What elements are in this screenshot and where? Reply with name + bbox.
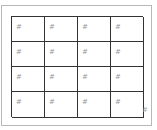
cell-label: # bbox=[115, 23, 121, 31]
cell-label: # bbox=[115, 98, 121, 106]
grid-cell-r2c4[interactable]: # bbox=[111, 42, 144, 67]
cell-label: # bbox=[82, 98, 88, 106]
grid-cell-r4c2[interactable]: # bbox=[45, 92, 78, 118]
cell-label: # bbox=[49, 48, 55, 56]
grid-cell-r1c2[interactable]: # bbox=[45, 17, 78, 42]
grid-cell-r1c4[interactable]: # bbox=[111, 17, 144, 42]
grid-cell-r4c4[interactable]: # bbox=[111, 92, 144, 118]
cell-label: # bbox=[82, 73, 88, 81]
grid-cell-r2c2[interactable]: # bbox=[45, 42, 78, 67]
grid-cell-r3c1[interactable]: # bbox=[12, 67, 45, 92]
grid-cell-r2c3[interactable]: # bbox=[78, 42, 111, 67]
grid-cell-r3c4[interactable]: # bbox=[111, 67, 144, 92]
cell-label: # bbox=[49, 98, 55, 106]
grid-cell-r3c3[interactable]: # bbox=[78, 67, 111, 92]
grid-cell-r3c2[interactable]: # bbox=[45, 67, 78, 92]
cell-label: # bbox=[82, 23, 88, 31]
cell-label: # bbox=[16, 98, 22, 106]
grid-cell-r4c1[interactable]: # bbox=[12, 92, 45, 118]
grid-cell-r1c1[interactable]: # bbox=[12, 17, 45, 42]
cell-label: # bbox=[16, 48, 22, 56]
cell-label: # bbox=[115, 48, 121, 56]
grid-cell-r4c3[interactable]: # bbox=[78, 92, 111, 118]
grid-cell-r2c1[interactable]: # bbox=[12, 42, 45, 67]
cell-label: # bbox=[16, 73, 22, 81]
cell-label: # bbox=[16, 23, 22, 31]
grid-cell-r1c3[interactable]: # bbox=[78, 17, 111, 42]
cell-label: # bbox=[49, 23, 55, 31]
resize-handle-icon[interactable]: # bbox=[142, 106, 148, 114]
cell-label: # bbox=[82, 48, 88, 56]
cell-grid: # # # # # # # # # # # # # # # # bbox=[11, 16, 143, 117]
cell-label: # bbox=[49, 73, 55, 81]
cell-label: # bbox=[115, 73, 121, 81]
